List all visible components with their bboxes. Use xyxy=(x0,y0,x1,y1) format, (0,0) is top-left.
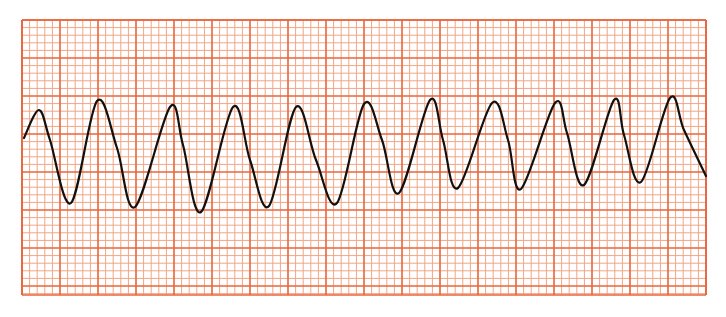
paper-background xyxy=(0,0,726,317)
ecg-strip xyxy=(0,0,726,317)
